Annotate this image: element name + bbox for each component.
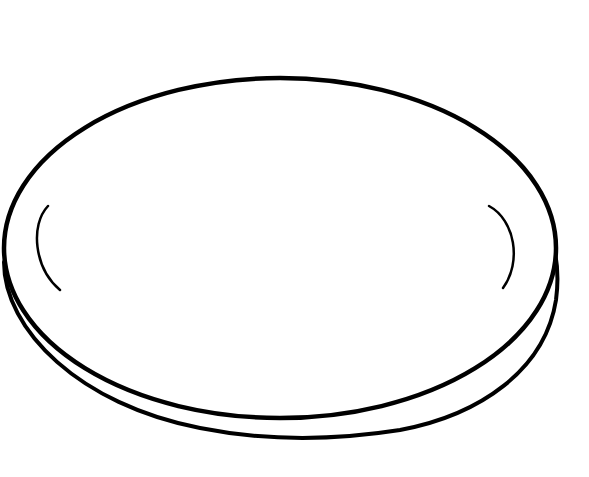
plate-drawing — [0, 0, 589, 477]
plate-outer-rim — [4, 78, 556, 418]
plate-illustration — [0, 0, 589, 477]
